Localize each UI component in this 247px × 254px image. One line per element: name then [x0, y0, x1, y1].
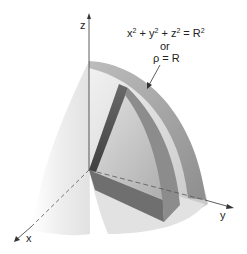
equation-spherical: ρ = R — [153, 53, 180, 64]
y-axis-arrowhead — [226, 204, 234, 209]
x-axis-label: x — [26, 233, 32, 244]
z-axis-label: z — [80, 20, 86, 31]
z-axis-arrowhead — [87, 13, 91, 19]
y-axis-label: y — [220, 210, 226, 221]
eq-y: + y — [136, 27, 154, 39]
eq-z-exp: 2 — [176, 27, 180, 34]
y-axis — [205, 200, 230, 207]
eq-r-exp: 2 — [201, 27, 205, 34]
eq-x: x — [127, 27, 133, 39]
equation-cartesian: x2 + y2 + z2 = R2 — [127, 28, 205, 39]
label-pointer-line — [149, 65, 160, 85]
eq-z: + z — [158, 27, 176, 39]
eq-x-exp: 2 — [133, 27, 137, 34]
eq-y-exp: 2 — [154, 27, 158, 34]
eq-r: = R — [180, 27, 200, 39]
sphere-octant-diagram — [0, 0, 247, 254]
sphere-left-surface — [32, 61, 90, 235]
equation-or: or — [160, 41, 170, 52]
